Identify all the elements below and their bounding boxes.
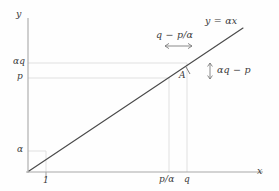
x-axis-label: x (257, 166, 263, 176)
line-graph-figure: y x y = αx αq p α 1 p/α q A q − p/α αq −… (0, 0, 279, 191)
graph-canvas (0, 0, 279, 191)
y-tick-label-alpha-q: αq (13, 57, 25, 66)
horizontal-gap-annotation-label: q − p/α (156, 30, 193, 40)
y-tick-label-alpha: α (17, 145, 23, 154)
vertical-span-arrow (208, 63, 213, 79)
horizontal-span-arrow (165, 43, 192, 48)
curve-y-equals-alpha-x (29, 28, 243, 171)
y-tick-label-p: p (17, 72, 23, 81)
point-a-label: A (179, 71, 186, 80)
x-tick-label-q: q (184, 175, 190, 184)
axes (26, 18, 263, 178)
y-axis-label: y (16, 9, 22, 19)
x-tick-label-one: 1 (43, 176, 49, 185)
vertical-gap-annotation-label: αq − p (217, 65, 251, 75)
curve-label: y = αx (205, 16, 237, 26)
x-tick-label-p-over-alpha: p/α (159, 175, 174, 184)
